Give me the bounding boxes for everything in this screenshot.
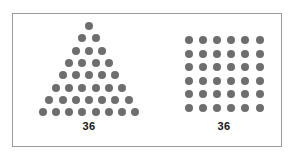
dot: [256, 36, 264, 44]
illustration-canvas: 36 36: [0, 0, 292, 155]
dot: [85, 96, 93, 104]
dot: [213, 63, 221, 71]
dot: [98, 71, 106, 79]
dot: [131, 108, 139, 116]
dot: [241, 50, 249, 58]
dot: [45, 96, 53, 104]
dot: [256, 77, 264, 85]
dot: [213, 36, 221, 44]
dot: [199, 77, 207, 85]
dot: [256, 50, 264, 58]
dot: [78, 108, 86, 116]
dot: [213, 104, 221, 112]
dot: [241, 77, 249, 85]
dot: [65, 84, 73, 92]
figure-frame: 36 36: [12, 13, 282, 147]
triangle-count-label: 36: [13, 120, 165, 132]
grid-count-label: 36: [165, 120, 283, 132]
dot: [241, 104, 249, 112]
dot: [105, 108, 113, 116]
dot: [213, 50, 221, 58]
dot: [118, 108, 126, 116]
dot: [241, 63, 249, 71]
dot: [72, 71, 80, 79]
dot: [118, 84, 126, 92]
dot: [78, 84, 86, 92]
dot: [227, 77, 235, 85]
dot: [256, 104, 264, 112]
dot: [241, 36, 249, 44]
dot: [98, 47, 106, 55]
dot: [65, 59, 73, 67]
dot: [227, 63, 235, 71]
dot: [92, 34, 100, 42]
dot: [65, 108, 73, 116]
dot: [241, 90, 249, 98]
dot: [227, 36, 235, 44]
dot: [105, 59, 113, 67]
dot: [59, 71, 67, 79]
dot: [199, 50, 207, 58]
figure-triangular-arrangement: 36: [13, 14, 165, 146]
dot: [185, 63, 193, 71]
dot: [72, 47, 80, 55]
dot: [72, 96, 80, 104]
dot: [199, 63, 207, 71]
dot: [92, 84, 100, 92]
dot: [227, 50, 235, 58]
dot: [52, 108, 60, 116]
dot: [52, 84, 60, 92]
dot: [78, 34, 86, 42]
dot: [111, 71, 119, 79]
figure-square-grid-arrangement: 36: [165, 14, 283, 146]
dot: [98, 96, 106, 104]
dot: [185, 36, 193, 44]
dot: [85, 71, 93, 79]
dot: [185, 77, 193, 85]
dot: [213, 90, 221, 98]
dot: [111, 96, 119, 104]
dot: [59, 96, 67, 104]
dot: [227, 104, 235, 112]
dot: [85, 47, 93, 55]
dot: [39, 108, 47, 116]
dot: [125, 96, 133, 104]
dot: [185, 50, 193, 58]
dot: [92, 108, 100, 116]
dot: [213, 77, 221, 85]
dot: [256, 90, 264, 98]
dot: [78, 59, 86, 67]
dot: [185, 90, 193, 98]
dot: [256, 63, 264, 71]
dot: [85, 22, 93, 30]
dot: [199, 104, 207, 112]
dot: [199, 36, 207, 44]
dot: [185, 104, 193, 112]
dot: [227, 90, 235, 98]
dot: [92, 59, 100, 67]
dot: [199, 90, 207, 98]
dot: [105, 84, 113, 92]
